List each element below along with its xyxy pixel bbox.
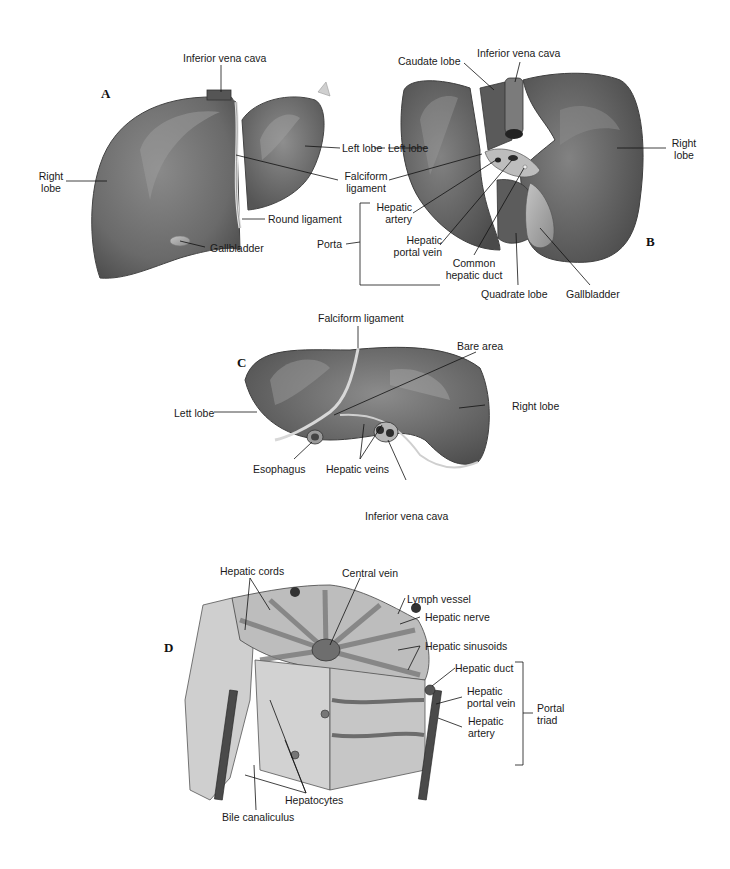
label-a-round-ligament: Round ligament — [268, 213, 342, 225]
panel-letter-b: B — [646, 234, 655, 250]
label-a-inferior-vena-cava: Inferior vena cava — [183, 52, 266, 64]
label-b-gallbladder: Gallbladder — [566, 288, 620, 300]
label-d-central-vein: Central vein — [342, 567, 398, 579]
label-b-portal-vein-line1: Hepatic — [406, 234, 442, 246]
label-c-right-lobe: Right lobe — [512, 400, 559, 412]
label-b-caudate-lobe: Caudate lobe — [398, 55, 460, 67]
panel-letter-c: C — [237, 355, 246, 371]
label-c-left-lobe: Lett lobe — [174, 407, 214, 419]
label-c-esophagus: Esophagus — [253, 463, 306, 475]
label-b-right-lobe-line2: lobe — [674, 149, 694, 161]
label-b-hepatic-portal-vein: Hepatic portal vein — [386, 234, 442, 258]
label-d-portal-triad-line2: triad — [537, 714, 557, 726]
label-falciform-line2: ligament — [346, 182, 386, 194]
label-a-right-lobe: Right lobe — [36, 170, 66, 194]
label-d-portal-triad: Portal triad — [537, 702, 564, 726]
label-b-porta: Porta — [317, 238, 342, 250]
label-d-hepatic-artery-line2: artery — [468, 727, 495, 739]
label-falciform-line1: Falciform — [344, 170, 387, 182]
label-d-hepatic-portal-vein: Hepatic portal vein — [467, 685, 515, 709]
label-d-hepatocytes: Hepatocytes — [285, 794, 343, 806]
label-b-common-duct-line1: Common — [453, 257, 496, 269]
label-c-inferior-vena-cava: Inferior vena cava — [365, 510, 448, 522]
label-b-common-hepatic-duct: Common hepatic duct — [440, 257, 508, 281]
label-b-common-duct-line2: hepatic duct — [446, 269, 503, 281]
label-d-hepatic-cords: Hepatic cords — [220, 565, 284, 577]
label-c-hepatic-veins: Hepatic veins — [326, 463, 389, 475]
panel-letter-a: A — [101, 86, 110, 102]
label-b-left-lobe-visible: Left lobe — [388, 142, 428, 154]
label-d-hepatic-duct: Hepatic duct — [455, 662, 513, 674]
label-a-right-lobe-line2: lobe — [41, 182, 61, 194]
label-b-hepatic-artery-line1: Hepatic — [376, 201, 412, 213]
label-d-portal-vein-line2: portal vein — [467, 697, 515, 709]
label-b-right-lobe: Right lobe — [668, 137, 700, 161]
panel-letter-d: D — [164, 640, 173, 656]
label-d-portal-vein-line1: Hepatic — [467, 685, 503, 697]
label-d-hepatic-artery-line1: Hepatic — [468, 715, 504, 727]
label-a-gallbladder: Gallbladder — [210, 242, 264, 254]
label-b-quadrate-lobe: Quadrate lobe — [481, 288, 548, 300]
label-falciform-ligament-shared: Falciform ligament — [338, 170, 394, 194]
label-d-portal-triad-line1: Portal — [537, 702, 564, 714]
label-d-lymph-vessel: Lymph vessel — [407, 593, 471, 605]
label-d-hepatic-sinusoids: Hepatic sinusoids — [425, 640, 507, 652]
liver-figure-art — [0, 0, 730, 869]
label-b-inferior-vena-cava: Inferior vena cava — [477, 47, 560, 59]
label-d-hepatic-nerve: Hepatic nerve — [425, 611, 490, 623]
label-b-hepatic-artery: Hepatic artery — [368, 201, 412, 225]
label-d-bile-canaliculus: Bile canaliculus — [222, 811, 294, 823]
label-b-right-lobe-line1: Right — [672, 137, 697, 149]
label-d-hepatic-artery: Hepatic artery — [468, 715, 504, 739]
panel-c-art — [214, 326, 489, 480]
label-b-portal-vein-line2: portal vein — [394, 246, 442, 258]
label-a-right-lobe-line1: Right — [39, 170, 64, 182]
label-b-hepatic-artery-line2: artery — [385, 213, 412, 225]
label-a-left-lobe: Left lobe — [342, 142, 382, 154]
label-c-falciform-ligament: Falciform ligament — [318, 312, 404, 324]
label-c-bare-area: Bare area — [457, 340, 503, 352]
